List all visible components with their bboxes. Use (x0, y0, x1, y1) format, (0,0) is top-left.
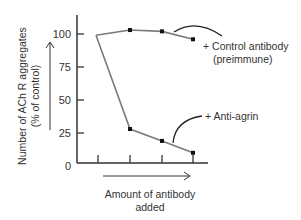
control-series-label-line-2: (preimmune) (213, 53, 273, 65)
anti-agrin-data-point (191, 151, 195, 155)
chart: 0255075100 Number of ACh R aggregates (%… (0, 0, 301, 220)
x-arrow-icon (103, 172, 190, 180)
series-group (96, 28, 195, 155)
control-series-line (96, 30, 193, 39)
y-tick-label: 50 (59, 94, 71, 106)
y-ticks: 0255075100 (53, 28, 84, 172)
control-data-point (128, 28, 132, 32)
control-leader-line (174, 26, 222, 36)
x-axis-label-line-1: Amount of antibody (105, 188, 196, 200)
anti-agrin-data-point (160, 139, 164, 143)
x-ticks (98, 155, 193, 163)
control-series-label-line-1: + Control antibody (203, 40, 289, 52)
control-data-point (160, 29, 164, 33)
y-arrow-icon (46, 42, 54, 130)
control-data-point (191, 37, 195, 41)
y-tick-label: 100 (53, 28, 71, 40)
y-tick-label: 75 (59, 61, 71, 73)
anti-agrin-series-line (96, 35, 193, 152)
anti-agrin-series-label: + Anti-agrin (205, 110, 259, 122)
anti-agrin-leader-line (173, 116, 202, 143)
y-axis-label-line-2: (% of control) (29, 65, 41, 127)
y-axis-label-line-1: Number of ACh R aggregates (16, 27, 28, 165)
x-axis-label-line-2: added (135, 201, 164, 213)
anti-agrin-data-point (128, 127, 132, 131)
y-tick-label: 25 (59, 127, 71, 139)
y-axis-label: Number of ACh R aggregates (% of control… (16, 27, 41, 165)
y-tick-label: 0 (65, 160, 71, 172)
